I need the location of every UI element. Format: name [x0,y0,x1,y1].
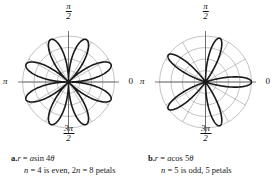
caption-a-theta: θ [50,153,54,163]
caption-b-note-text: = 5 is odd, 5 petals [165,165,231,175]
caption-b-equation: b.r = acos 5θ [137,153,274,165]
axis-label-pi-b: π [140,77,145,86]
caption-b-theta: θ [189,153,193,163]
axis-label-3pi-over-2-b: 3π 2 [200,124,211,143]
polar-rose-figure: π 2 3π 2 π 0 a.r = asin 4θ n = 4 is even… [0,0,274,191]
caption-a: a.r = asin 4θ n = 4 is even, 2n = 8 peta… [0,153,137,176]
polar-plot-b: π 2 3π 2 π 0 [137,0,274,152]
panel-rose-cos-5theta: π 2 3π 2 π 0 b.r = acos 5θ n = 5 is odd,… [137,0,274,191]
axis-label-pi-over-2-a: π 2 [65,2,72,21]
caption-b: b.r = acos 5θ n = 5 is odd, 5 petals [137,153,274,176]
axis-label-zero-a: 0 [129,77,134,86]
axis-label-bottom-denominator: 2 [200,134,211,143]
axis-label-bottom-denominator: 2 [63,134,74,143]
axis-label-zero-b: 0 [266,77,271,86]
axis-label-pi-a: π [3,77,8,86]
caption-b-note: n = 5 is odd, 5 petals [137,165,274,177]
polar-plot-a: π 2 3π 2 π 0 [0,0,137,152]
caption-a-note: n = 4 is even, 2n = 8 petals [0,165,137,177]
axis-label-3pi-over-2-a: 3π 2 [63,124,74,143]
axis-label-top-denominator: 2 [202,12,209,21]
axis-label-top-denominator: 2 [65,12,72,21]
caption-b-label: b. [148,153,155,163]
panel-rose-sin-4theta: π 2 3π 2 π 0 a.r = asin 4θ n = 4 is even… [0,0,137,191]
axis-label-pi-over-2-b: π 2 [202,2,209,21]
caption-a-equation: a.r = asin 4θ [0,153,137,165]
caption-a-fn: sin 4 [34,153,50,163]
caption-a-note-text: = 4 is even, 2 [28,165,76,175]
caption-b-fn: cos 5 [171,153,189,163]
caption-a-note-text2: = 8 petals [80,165,115,175]
